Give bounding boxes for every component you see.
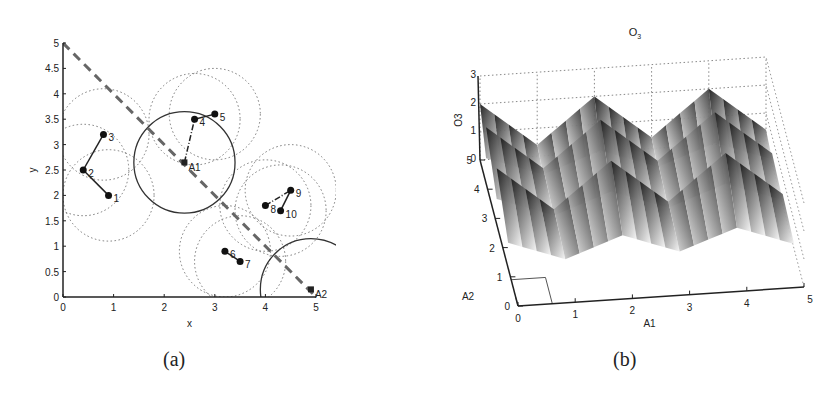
anchor-label: A1 [188,162,201,173]
link-line [184,119,194,162]
x-tick-label: 4 [263,302,269,313]
surface-plot: 0123450123450123A1A2O3O3 [400,0,831,340]
y-tick-label: 1 [53,241,59,252]
node-label: 1 [114,193,120,204]
grid-line [480,57,766,76]
chart-a: 01234500.511.522.533.544.55xy12345678910… [0,0,400,340]
surface [480,89,794,259]
plot-area [38,43,362,340]
node-label: 8 [270,204,276,215]
node-point [221,248,228,255]
node-label: 6 [230,249,236,260]
z-axis [478,76,480,160]
x-tick-label: 5 [313,302,319,313]
y-tick-label: 2.5 [45,165,59,176]
y-tick-label: 3.5 [45,114,59,125]
y-tick-label: 0.5 [45,267,59,278]
z-tick-label: 2 [470,97,476,108]
a2-axis-label: A2 [462,291,475,302]
node-point [237,258,244,265]
link-line [83,170,108,195]
a1-tick-label: 4 [744,298,750,309]
y-tick-label: 3 [53,140,59,151]
a1-tick-label: 1 [572,309,578,320]
x-axis-label: x [187,318,192,329]
a1-tick-label: 2 [630,305,636,316]
x-tick-label: 2 [161,302,167,313]
chart-b: 0123450123450123A1A2O3O3 [400,0,831,340]
node-point [100,131,107,138]
caption-b: (b) [613,348,636,371]
z-tick-label: 0 [470,153,476,164]
node-label: 4 [200,117,206,128]
a1-tick-label: 0 [515,313,521,324]
y-tick-label: 2 [53,190,59,201]
z-tick-label: 1 [470,125,476,136]
node-label: 10 [286,209,298,220]
a1-tick-label: 3 [687,302,693,313]
chart-title: O3 [629,26,642,40]
link-line [83,134,103,170]
a1-axis-label: A1 [643,318,656,329]
contour-line [511,277,552,303]
a2-tick-label: 0 [504,301,510,312]
a1-tick-label: 5 [807,294,813,305]
node-point [277,207,284,214]
node-point [287,187,294,194]
scatter-plot: 01234500.511.522.533.544.55xy12345678910… [0,0,400,340]
a2-tick-label: 3 [482,213,488,224]
node-point [262,202,269,209]
a2-tick-label: 1 [497,272,503,283]
y-tick-label: 5 [53,38,59,49]
node-label: 2 [88,168,94,179]
node-label: 9 [296,188,302,199]
anchor-label: A2 [315,289,328,300]
node-point [191,116,198,123]
z-tick-label: 3 [470,69,476,80]
y-tick-label: 0 [53,292,59,303]
node-label: 3 [108,132,114,143]
node-point [105,192,112,199]
a2-tick-label: 2 [489,243,495,254]
y-tick-label: 4 [53,89,59,100]
y-tick-label: 1.5 [45,216,59,227]
node-label: 5 [220,112,226,123]
y-tick-label: 4.5 [45,63,59,74]
a1-axis [518,287,804,306]
z-axis-label: O3 [453,113,464,127]
node-label: 7 [245,259,251,270]
x-tick-label: 3 [212,302,218,313]
anchor-marker [181,159,187,165]
anchor-marker [308,286,314,292]
a2-tick-label: 4 [474,184,480,195]
node-point [211,111,218,118]
node-point [80,167,87,174]
y-axis-label: y [27,168,38,173]
x-tick-label: 1 [111,302,117,313]
x-tick-label: 0 [60,302,66,313]
caption-a: (a) [163,348,185,371]
